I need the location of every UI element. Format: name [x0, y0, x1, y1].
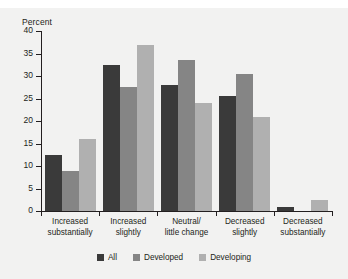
- x-axis-category-label: Increased substantially: [41, 217, 99, 238]
- y-axis-tick-label: 15: [24, 139, 33, 148]
- y-axis-tick-label: 5: [28, 184, 33, 193]
- x-axis-category-label: Increased slightly: [99, 217, 157, 238]
- legend-label: Developed: [144, 253, 183, 262]
- x-axis-tick: [332, 212, 333, 216]
- y-axis-tick-label: 0: [28, 206, 33, 215]
- bar[interactable]: [120, 87, 137, 211]
- x-axis-tick: [99, 212, 100, 216]
- bar-group: [103, 31, 154, 211]
- x-axis-category-label: Neutral/ little change: [157, 217, 215, 238]
- bar[interactable]: [79, 139, 96, 211]
- y-axis-tick-label: 20: [24, 116, 33, 125]
- legend-swatch-icon: [133, 254, 140, 261]
- x-axis-tick: [274, 212, 275, 216]
- bar[interactable]: [161, 85, 178, 211]
- bar-group: [45, 31, 96, 211]
- legend-item[interactable]: Developed: [133, 253, 183, 262]
- bar[interactable]: [45, 155, 62, 211]
- bar[interactable]: [195, 103, 212, 211]
- y-axis-tick-label: 40: [24, 26, 33, 35]
- x-axis-category-label: Decreased slightly: [216, 217, 274, 238]
- y-axis-tick-label: 10: [24, 161, 33, 170]
- x-axis-category-label: Decreased substantially: [274, 217, 332, 238]
- bar[interactable]: [277, 207, 294, 212]
- bar[interactable]: [219, 96, 236, 211]
- y-axis-tick-label: 25: [24, 94, 33, 103]
- chart-legend: AllDevelopedDeveloping: [0, 253, 348, 262]
- bar-group: [277, 31, 328, 211]
- legend-swatch-icon: [199, 254, 206, 261]
- bar-group: [219, 31, 270, 211]
- x-axis-tick: [216, 212, 217, 216]
- x-axis-tick: [157, 212, 158, 216]
- bar-chart-figure: Percent 0510152025303540 Increased subst…: [0, 0, 348, 279]
- bar[interactable]: [236, 74, 253, 211]
- bar[interactable]: [137, 45, 154, 212]
- legend-item[interactable]: All: [97, 253, 117, 262]
- legend-label: Developing: [210, 253, 251, 262]
- legend-item[interactable]: Developing: [199, 253, 251, 262]
- legend-label: All: [108, 253, 117, 262]
- y-axis-tick-label: 35: [24, 49, 33, 58]
- bar[interactable]: [62, 171, 79, 212]
- x-axis-tick: [41, 212, 42, 216]
- bar[interactable]: [311, 200, 328, 211]
- bar[interactable]: [253, 117, 270, 212]
- top-text-strip: [0, 0, 348, 8]
- bar[interactable]: [103, 65, 120, 211]
- bar[interactable]: [178, 60, 195, 211]
- legend-swatch-icon: [97, 254, 104, 261]
- y-axis-tick-label: 30: [24, 71, 33, 80]
- x-axis-line: [41, 211, 333, 212]
- plot-area: [41, 31, 332, 211]
- bar-group: [161, 31, 212, 211]
